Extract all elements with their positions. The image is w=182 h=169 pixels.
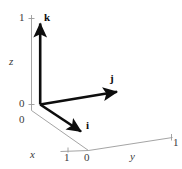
z-tick-zero-label: 0 (19, 98, 25, 109)
z-tick-one-label: 1 (19, 12, 25, 23)
y-axis-label: y (130, 151, 135, 162)
basis-vectors (40, 24, 117, 132)
y-axis-line (89, 138, 173, 151)
axes-and-vectors-svg (0, 0, 182, 169)
vector-j-label: j (110, 73, 114, 84)
xy-corner-zero-label: 0 (84, 152, 90, 163)
vector-i-arrow (40, 105, 81, 132)
z-axis-label: z (9, 56, 13, 67)
x-axis-label: x (30, 149, 35, 160)
vector-diagram-figure: 1 0 z 0 x 1 0 y 1 k j i (0, 0, 182, 169)
vector-k-label: k (44, 12, 50, 23)
vector-j-arrow (40, 92, 117, 105)
x-origin-zero-label: 0 (19, 114, 25, 125)
x-tick-one-label: 1 (64, 152, 70, 163)
reference-axis-lines (29, 15, 173, 153)
y-tick-one-label: 1 (173, 137, 179, 148)
vector-i-label: i (86, 120, 89, 131)
